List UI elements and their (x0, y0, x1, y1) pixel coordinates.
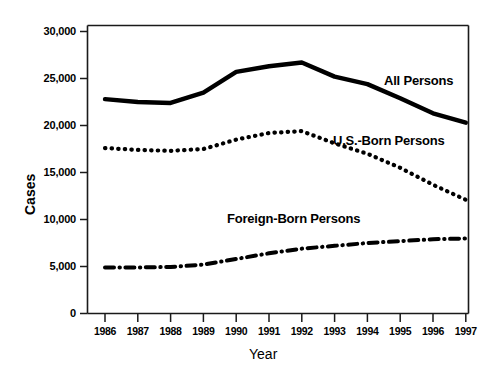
y-tick-label-20000: 20,000 (12, 119, 76, 131)
y-tick-label-0: 0 (12, 307, 76, 319)
x-axis-title: Year (249, 346, 277, 362)
chart-canvas (0, 0, 482, 377)
y-tick-label-5000: 5,000 (12, 260, 76, 272)
series-label-foreign-born-persons: Foreign-Born Persons (227, 211, 360, 226)
series-label-us-born-persons: U.S.-Born Persons (333, 133, 444, 148)
y-tick-label-30000: 30,000 (12, 25, 76, 37)
y-axis-ticks (80, 32, 88, 314)
series-label-all-persons: All Persons (384, 73, 453, 88)
y-tick-label-25000: 25,000 (12, 72, 76, 84)
x-tick-label-1997: 1997 (446, 325, 482, 337)
plot-frame (88, 26, 469, 314)
line-chart: 30,000 25,000 20,000 15,000 10,000 5,000… (0, 0, 482, 377)
series-line-all-persons (105, 63, 466, 123)
y-axis-title: Cases (22, 174, 38, 215)
x-axis-ticks (105, 314, 466, 323)
series-line-foreign-born-persons (105, 238, 466, 267)
series-group (105, 63, 466, 268)
